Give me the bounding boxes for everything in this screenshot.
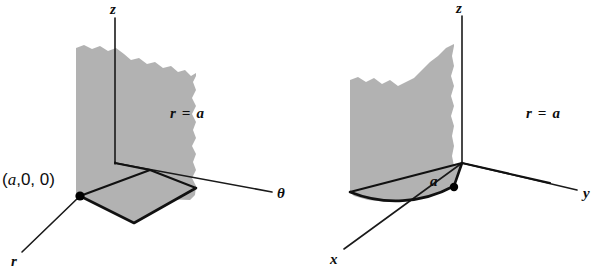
figure-root: z θ r (a,0, 0) r=a z y [0, 0, 604, 271]
point-label-a00: (a,0, 0) [2, 170, 55, 189]
surface-label-variable: r [170, 105, 176, 121]
surface-label-variable: r [526, 105, 532, 121]
z-axis-label: z [455, 0, 462, 16]
sector-radius-to-y [462, 163, 550, 183]
theta-axis-label: θ [277, 185, 285, 201]
r-axis-label: r [11, 253, 17, 269]
y-axis-label: y [581, 185, 590, 201]
x-axis-label: x [329, 251, 338, 267]
diagram-cylindrical-coordinates-plane: z θ r (a,0, 0) r=a [0, 0, 302, 271]
surface-label-value: a [552, 105, 560, 121]
r-axis-line [22, 196, 80, 252]
point-a00-marker [75, 191, 84, 200]
z-axis-label: z [109, 1, 116, 17]
surface-label-left: r=a [170, 105, 204, 121]
radius-endpoint-marker [450, 183, 458, 191]
surface-label-equals: = [538, 105, 547, 121]
point-label-a: a [8, 170, 17, 189]
diagram-cartesian-cylinder-sector: z y x a r=a [302, 0, 604, 271]
radius-label-a: a [430, 173, 438, 189]
surface-label-equals: = [182, 105, 191, 121]
surface-label-right: r=a [526, 105, 560, 121]
point-label-rest: ,0, 0) [16, 170, 55, 189]
surface-label-value: a [196, 105, 204, 121]
